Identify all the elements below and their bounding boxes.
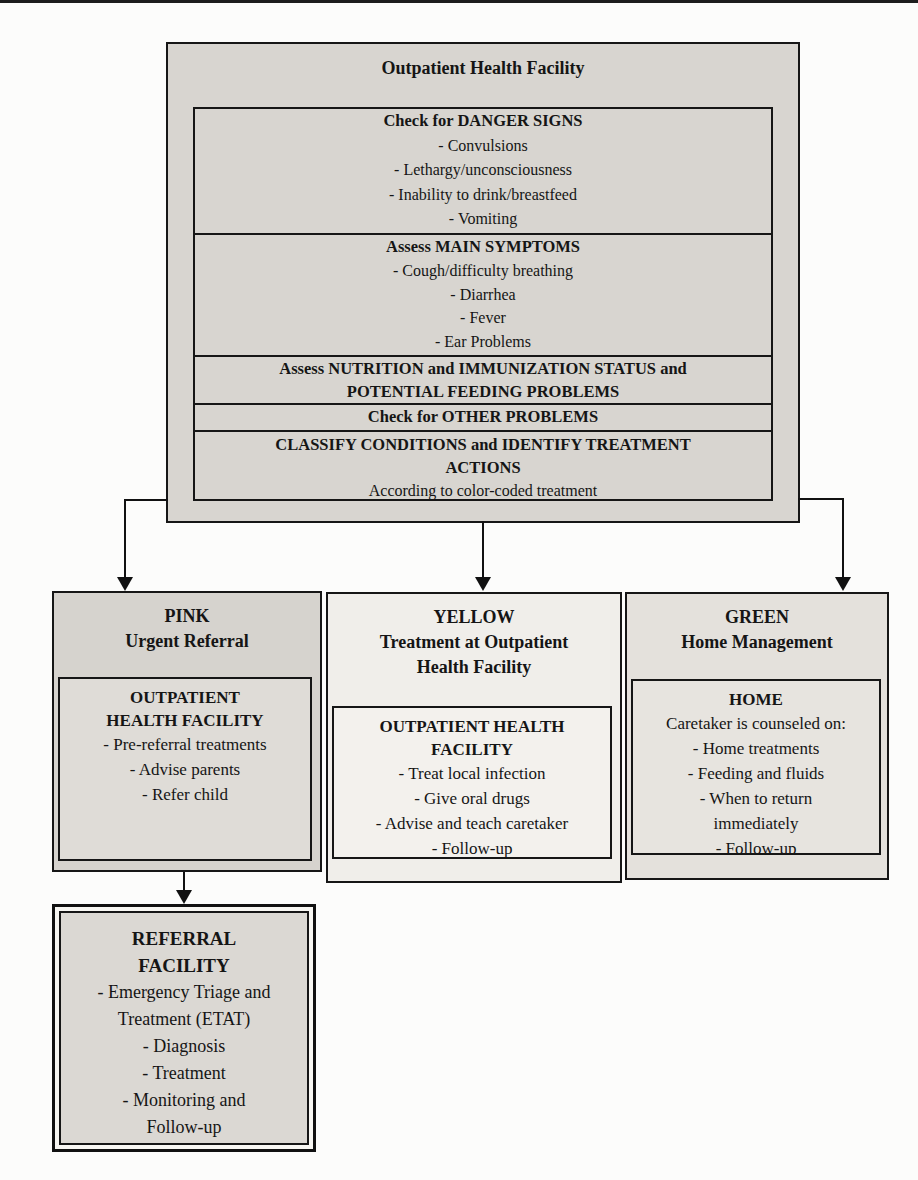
inner-box-items: - Treat local infection - Give oral drug… xyxy=(334,761,610,859)
referral-facility-box: REFERRAL FACILITY - Emergency Triage and… xyxy=(52,904,316,1152)
section-heading: Assess MAIN SYMPTOMS xyxy=(195,235,771,259)
facility-steps-box: Check for DANGER SIGNS - Convulsions - L… xyxy=(193,107,773,501)
connector-right-horizontal xyxy=(798,498,844,500)
section-nutrition-immunization: Assess NUTRITION and IMMUNIZATION STATUS… xyxy=(195,357,771,405)
arrowhead-down-icon xyxy=(835,577,851,591)
section-heading: Check for DANGER SIGNS xyxy=(195,109,771,134)
pink-box-header: PINK Urgent Referral xyxy=(54,593,320,654)
arrowhead-down-icon xyxy=(475,577,491,591)
connector-middle-vertical xyxy=(482,521,484,578)
referral-box-items: - Emergency Triage and Treatment (ETAT) … xyxy=(61,979,307,1141)
yellow-treatment-box: YELLOW Treatment at Outpatient Health Fa… xyxy=(326,592,622,883)
arrowhead-down-icon xyxy=(176,890,192,904)
facility-box-title: Outpatient Health Facility xyxy=(168,44,798,79)
outpatient-health-facility-box: Outpatient Health Facility Check for DAN… xyxy=(166,42,800,523)
connector-referral-vertical xyxy=(183,870,185,891)
scanned-flowchart-page: Outpatient Health Facility Check for DAN… xyxy=(0,0,918,1180)
pink-urgent-referral-box: PINK Urgent Referral OUTPATIENT HEALTH F… xyxy=(52,591,322,872)
connector-left-horizontal xyxy=(125,499,168,501)
section-heading: CLASSIFY CONDITIONS and IDENTIFY TREATME… xyxy=(195,433,771,479)
inner-box-title: HOME xyxy=(633,681,879,711)
inner-box-items: - Home treatments - Feeding and fluids -… xyxy=(633,736,879,855)
connector-left-vertical xyxy=(124,499,126,578)
connector-right-vertical xyxy=(842,498,844,578)
inner-box-intro: Caretaker is counseled on: xyxy=(633,711,879,736)
page-header-rule xyxy=(0,0,918,3)
section-items: - Convulsions - Lethargy/unconsciousness… xyxy=(195,134,771,232)
inner-box-items: - Pre-referral treatments - Advise paren… xyxy=(60,732,310,807)
section-heading: Check for OTHER PROBLEMS xyxy=(195,405,771,429)
section-danger-signs: Check for DANGER SIGNS - Convulsions - L… xyxy=(195,109,771,235)
green-home-box: HOME Caretaker is counseled on: - Home t… xyxy=(631,679,881,855)
section-main-symptoms: Assess MAIN SYMPTOMS - Cough/difficulty … xyxy=(195,235,771,357)
referral-box-title: REFERRAL FACILITY xyxy=(61,913,307,979)
arrowhead-down-icon xyxy=(117,577,133,591)
pink-outpatient-facility-box: OUTPATIENT HEALTH FACILITY - Pre-referra… xyxy=(58,677,312,861)
yellow-box-header: YELLOW Treatment at Outpatient Health Fa… xyxy=(328,594,620,680)
green-home-management-box: GREEN Home Management HOME Caretaker is … xyxy=(625,592,889,880)
referral-facility-inner-box: REFERRAL FACILITY - Emergency Triage and… xyxy=(59,911,309,1145)
section-heading: Assess NUTRITION and IMMUNIZATION STATUS… xyxy=(195,358,771,403)
section-other-problems: Check for OTHER PROBLEMS xyxy=(195,405,771,432)
yellow-outpatient-facility-box: OUTPATIENT HEALTH FACILITY - Treat local… xyxy=(332,706,612,859)
green-box-header: GREEN Home Management xyxy=(627,594,887,655)
section-classify-conditions: CLASSIFY CONDITIONS and IDENTIFY TREATME… xyxy=(195,432,771,499)
section-items: - Cough/difficulty breathing - Diarrhea … xyxy=(195,259,771,354)
section-items: According to color-coded treatment xyxy=(195,479,771,499)
inner-box-title: OUTPATIENT HEALTH FACILITY xyxy=(334,708,610,761)
inner-box-title: OUTPATIENT HEALTH FACILITY xyxy=(60,679,310,732)
